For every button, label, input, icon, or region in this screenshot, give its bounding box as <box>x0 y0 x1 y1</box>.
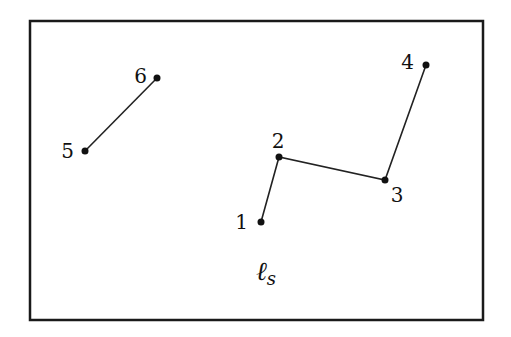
label-1: 1 <box>235 210 248 234</box>
point-3 <box>382 177 389 184</box>
label-2: 2 <box>272 129 285 153</box>
caption-subscript: s <box>267 268 276 289</box>
line-segments <box>85 65 426 222</box>
label-6: 6 <box>134 64 147 88</box>
segment-5-6 <box>85 78 157 151</box>
caption-ell-s: ℓs <box>256 256 276 289</box>
point-6 <box>154 75 161 82</box>
vertex-labels: 123456 <box>61 50 414 234</box>
point-2 <box>276 154 283 161</box>
label-3: 3 <box>391 183 404 207</box>
diagram-canvas: 123456 ℓs <box>0 0 511 337</box>
caption-main: ℓ <box>256 256 267 286</box>
label-5: 5 <box>61 139 74 163</box>
point-1 <box>258 219 265 226</box>
point-5 <box>82 148 89 155</box>
label-4: 4 <box>401 50 414 74</box>
point-4 <box>423 62 430 69</box>
